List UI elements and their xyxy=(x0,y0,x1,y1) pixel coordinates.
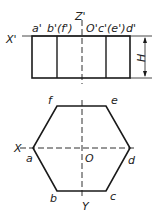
vertex-a-label: a xyxy=(26,152,33,165)
origin-label: O xyxy=(85,152,94,165)
vertex-d-label: d xyxy=(128,154,136,167)
label-d-prime: d' xyxy=(126,22,136,35)
top-view: X Y O a b c d e f xyxy=(13,94,137,213)
label-ce-prime: c'(e') xyxy=(98,22,125,35)
x-label: X xyxy=(13,142,22,155)
label-bf-prime: b'(f') xyxy=(47,22,73,35)
front-view: X' Z' a' b'(f') O' c'(e') d' H xyxy=(5,10,152,84)
x-prime-label: X' xyxy=(5,33,17,46)
prism-outline xyxy=(32,36,130,78)
z-prime-label: Z' xyxy=(74,10,86,23)
vertex-e-label: e xyxy=(111,94,118,107)
dimension-h-label: H xyxy=(135,54,148,62)
label-a-prime: a' xyxy=(32,22,42,35)
arrow-up-icon xyxy=(143,37,147,43)
label-o-prime: O' xyxy=(86,22,98,35)
vertex-b-label: b xyxy=(50,192,57,205)
hexagon xyxy=(33,106,130,191)
arrow-down-icon xyxy=(143,71,147,77)
hexagonal-prism-projection: X' Z' a' b'(f') O' c'(e') d' H X Y O a b… xyxy=(0,0,163,213)
vertex-f-label: f xyxy=(48,94,54,107)
y-label: Y xyxy=(82,200,90,213)
vertex-c-label: c xyxy=(110,190,116,203)
